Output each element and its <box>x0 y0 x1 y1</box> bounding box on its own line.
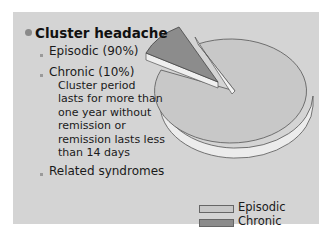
bullet-chronic: Chronic (10%) <box>49 65 134 79</box>
description-line: than 14 days <box>58 146 168 159</box>
description-line: lasts for more than <box>58 92 168 105</box>
bullet-episodic: Episodic (90%) <box>49 44 139 58</box>
bullet-icon <box>40 54 43 57</box>
bullet-icon <box>40 74 43 77</box>
description-line: remission lasts less <box>58 133 168 146</box>
description-line: one year without <box>58 106 168 119</box>
description-line: Cluster period <box>58 79 168 92</box>
slide: Cluster headache Episodic (90%) Chronic … <box>13 12 319 224</box>
bullet-related-syndromes: Related syndromes <box>49 164 164 178</box>
chronic-swatch-icon <box>199 219 234 227</box>
chronic-description: Cluster period lasts for more than one y… <box>58 79 168 159</box>
legend-label: Chronic <box>238 214 282 228</box>
heading: Cluster headache <box>35 25 168 41</box>
heading-bullet-icon <box>25 29 32 36</box>
episodic-swatch-icon <box>199 205 234 213</box>
description-line: remission or <box>58 119 168 132</box>
bullet-icon <box>40 173 43 176</box>
legend-label: Episodic <box>238 200 286 214</box>
